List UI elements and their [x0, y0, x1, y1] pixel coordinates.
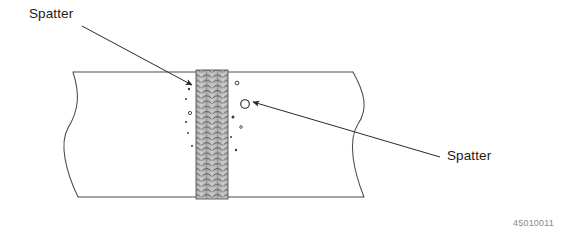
spatter-mark	[235, 149, 237, 151]
weld-bead-shading	[196, 70, 228, 199]
spatter-mark	[188, 88, 190, 90]
spatter-mark	[232, 116, 235, 119]
callout-label-spatter-bottom: Spatter	[447, 148, 491, 163]
spatter-mark	[187, 132, 189, 134]
spatter-mark	[230, 136, 232, 138]
figure-illustration	[0, 0, 566, 236]
spatter-mark	[185, 98, 187, 100]
weld-spatter-figure: Spatter Spatter 45010011	[0, 0, 566, 236]
spatter-mark	[185, 121, 187, 123]
figure-id-number: 45010011	[513, 218, 554, 228]
callout-label-spatter-top: Spatter	[29, 6, 73, 21]
spatter-mark	[191, 145, 193, 147]
weld-bead	[196, 70, 228, 199]
